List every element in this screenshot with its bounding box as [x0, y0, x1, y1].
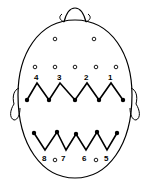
- open-electrode-icon: [114, 65, 118, 69]
- upper-electrode-chain: [27, 83, 123, 100]
- open-electrode-icon: [94, 65, 98, 69]
- filled-electrode-icon: [121, 98, 125, 102]
- open-electrode-icon: [94, 158, 98, 162]
- filled-electrode-icon: [115, 131, 119, 135]
- head-diagram-canvas: 43218765: [0, 0, 150, 193]
- open-electrode-icon: [53, 37, 57, 41]
- electrode-label: 8: [42, 154, 47, 163]
- electrode-label: 3: [57, 73, 62, 82]
- electrode-label: 6: [82, 154, 87, 163]
- electrode-label: 5: [104, 154, 109, 163]
- filled-electrode-icon: [97, 98, 101, 102]
- filled-electrode-icon: [55, 130, 59, 134]
- filled-electrode-icon: [74, 132, 78, 136]
- electrode-label: 1: [108, 73, 113, 82]
- filled-electrode-icon: [25, 98, 29, 102]
- electrodes-layer: 43218765: [25, 37, 125, 163]
- filled-electrode-icon: [32, 131, 36, 135]
- eeg-head-diagram: 43218765: [0, 0, 150, 193]
- electrode-label: 2: [84, 73, 89, 82]
- open-electrode-icon: [73, 65, 77, 69]
- filled-electrode-icon: [95, 130, 99, 134]
- filled-electrode-icon: [73, 98, 77, 102]
- open-electrode-icon: [33, 65, 37, 69]
- open-electrode-icon: [53, 65, 57, 69]
- electrode-label: 7: [61, 154, 66, 163]
- open-electrode-icon: [53, 158, 57, 162]
- filled-electrode-icon: [47, 98, 51, 102]
- electrode-label: 4: [34, 73, 39, 82]
- open-electrode-icon: [92, 37, 96, 41]
